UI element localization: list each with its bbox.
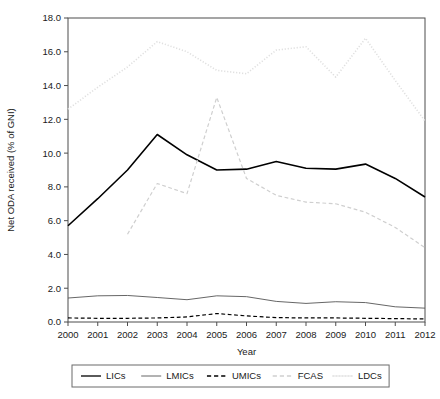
y-tick-label: 10.0: [43, 148, 62, 159]
series-line-fcas: [128, 97, 426, 247]
x-tick-label: 2004: [176, 329, 197, 340]
x-tick-label: 2012: [414, 329, 435, 340]
legend-label-lmics: LMICs: [166, 370, 194, 381]
y-tick-label: 0.0: [48, 316, 61, 327]
y-tick-label: 4.0: [48, 249, 61, 260]
y-tick-label: 2.0: [48, 283, 61, 294]
legend-label-umics: UMICs: [232, 370, 261, 381]
x-tick-label: 2000: [57, 329, 78, 340]
y-tick-label: 12.0: [43, 114, 62, 125]
series-line-lmics: [68, 295, 425, 308]
legend-label-lics: LICs: [106, 370, 126, 381]
series-line-lics: [68, 135, 425, 226]
x-tick-label: 2001: [87, 329, 108, 340]
plot-frame: [68, 18, 425, 322]
y-tick-label: 16.0: [43, 46, 62, 57]
y-tick-label: 18.0: [43, 12, 62, 23]
x-tick-label: 2006: [236, 329, 257, 340]
series-line-ldcs: [68, 38, 425, 121]
x-tick-label: 2005: [206, 329, 227, 340]
series-line-umics: [68, 314, 425, 319]
x-tick-label: 2010: [355, 329, 376, 340]
x-tick-label: 2007: [266, 329, 287, 340]
chart-figure: 0.02.04.06.08.010.012.014.016.018.020002…: [0, 0, 440, 399]
line-chart: 0.02.04.06.08.010.012.014.016.018.020002…: [0, 0, 440, 399]
y-tick-label: 6.0: [48, 215, 61, 226]
legend-label-fcas: FCAS: [298, 370, 323, 381]
x-tick-label: 2003: [147, 329, 168, 340]
y-tick-label: 14.0: [43, 80, 62, 91]
x-tick-label: 2011: [385, 329, 405, 340]
x-tick-label: 2002: [117, 329, 138, 340]
x-axis-title: Year: [237, 346, 256, 357]
y-axis-title: Net ODA received (% of GNI): [5, 108, 16, 232]
x-tick-label: 2008: [295, 329, 316, 340]
legend-label-ldcs: LDCs: [358, 370, 382, 381]
y-tick-label: 8.0: [48, 181, 61, 192]
x-tick-label: 2009: [325, 329, 346, 340]
